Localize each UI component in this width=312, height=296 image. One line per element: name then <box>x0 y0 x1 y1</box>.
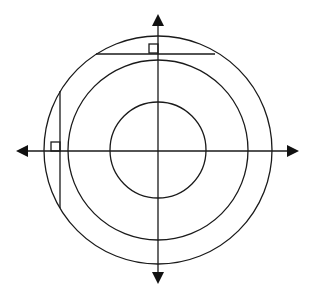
arrow-left-icon <box>16 145 28 157</box>
right-angle-markers <box>51 44 158 151</box>
left-marker <box>51 142 60 151</box>
arrow-up-icon <box>152 14 164 26</box>
arrow-down-icon <box>152 272 164 284</box>
arrow-right-icon <box>287 145 299 157</box>
top-marker <box>149 44 158 53</box>
concentric-circles-diagram <box>0 0 312 296</box>
